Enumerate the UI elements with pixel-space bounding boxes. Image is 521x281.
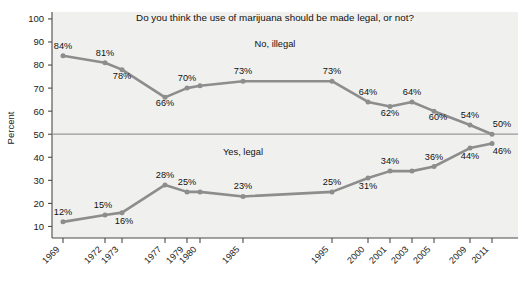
data-point-label: 12%: [54, 207, 72, 217]
data-point: [241, 79, 246, 84]
data-point: [61, 53, 66, 58]
chart-container: 102030405060708090100 Percent 1969197219…: [0, 0, 521, 281]
data-point-label: 81%: [96, 48, 114, 58]
data-point: [388, 169, 393, 174]
data-point: [366, 176, 371, 181]
data-point: [490, 141, 495, 146]
y-tick-label: 30: [33, 175, 44, 186]
data-point: [410, 99, 415, 104]
x-tick-label-1985: 1985: [220, 244, 241, 265]
y-tick-label: 90: [33, 36, 44, 47]
y-tick-label: 60: [33, 106, 44, 117]
data-point-label: 44%: [461, 151, 479, 161]
data-point-label: 64%: [359, 87, 377, 97]
y-tick-label: 50: [33, 129, 44, 140]
data-point: [103, 60, 108, 65]
data-point-label: 36%: [425, 152, 443, 162]
data-point: [468, 123, 473, 128]
data-point: [120, 210, 125, 215]
x-tick-label-2003: 2003: [389, 244, 410, 265]
data-point: [185, 86, 190, 91]
data-point-label: 73%: [234, 66, 252, 76]
data-point-label: 34%: [381, 156, 399, 166]
x-tick-label-2009: 2009: [447, 244, 468, 265]
x-axis-ticks: 1969197219731977197919801985199520002001…: [40, 238, 492, 266]
y-tick-label: 10: [33, 221, 44, 232]
data-point: [103, 212, 108, 217]
data-point: [410, 169, 415, 174]
data-point: [61, 219, 66, 224]
data-point: [241, 194, 246, 199]
data-point-label: 31%: [359, 181, 377, 191]
data-point-label: 50%: [493, 119, 511, 129]
data-point-label: 54%: [461, 110, 479, 120]
data-point-label: 25%: [178, 177, 196, 187]
x-tick-label-1977: 1977: [142, 244, 163, 265]
data-point-label: 60%: [429, 112, 447, 122]
chart-title: Do you think the use of marijuana should…: [136, 12, 414, 23]
series-label-no-illegal: No, illegal: [255, 39, 296, 49]
series-label-yes-legal: Yes, legal: [223, 147, 263, 157]
data-point: [198, 83, 203, 88]
y-tick-label: 80: [33, 59, 44, 70]
x-tick-label-2001: 2001: [367, 244, 388, 265]
data-point-label: 15%: [94, 200, 112, 210]
x-tick-label-1973: 1973: [99, 244, 120, 265]
y-tick-label: 70: [33, 83, 44, 94]
data-point: [468, 146, 473, 151]
data-point: [185, 189, 190, 194]
data-point-label: 66%: [156, 98, 174, 108]
x-tick-label-2000: 2000: [345, 244, 366, 265]
y-tick-label: 100: [28, 13, 44, 24]
x-tick-label-1972: 1972: [82, 244, 103, 265]
data-point-label: 23%: [234, 181, 252, 191]
data-point: [432, 164, 437, 169]
data-point-label: 62%: [381, 108, 399, 118]
line-chart: 102030405060708090100 Percent 1969197219…: [0, 0, 521, 281]
y-axis-ticks: 102030405060708090100: [28, 13, 52, 232]
data-point-label: 84%: [54, 41, 72, 51]
x-tick-label-2005: 2005: [411, 244, 432, 265]
data-point: [330, 189, 335, 194]
data-point-label: 78%: [113, 71, 131, 81]
data-point-label: 46%: [493, 146, 511, 156]
x-tick-label-1995: 1995: [309, 244, 330, 265]
data-point: [330, 79, 335, 84]
data-point: [163, 182, 168, 187]
data-point-label: 28%: [156, 170, 174, 180]
data-point-label: 16%: [115, 216, 133, 226]
data-point-label: 25%: [323, 177, 341, 187]
y-tick-label: 40: [33, 152, 44, 163]
y-axis-title: Percent: [5, 111, 16, 144]
data-point-label: 73%: [323, 66, 341, 76]
data-point-label: 70%: [178, 73, 196, 83]
x-tick-label-1969: 1969: [40, 244, 61, 265]
data-point-label: 64%: [403, 87, 421, 97]
x-tick-label-2011: 2011: [470, 244, 491, 265]
data-point: [490, 132, 495, 137]
y-tick-label: 20: [33, 198, 44, 209]
data-point: [366, 99, 371, 104]
data-point: [198, 189, 203, 194]
